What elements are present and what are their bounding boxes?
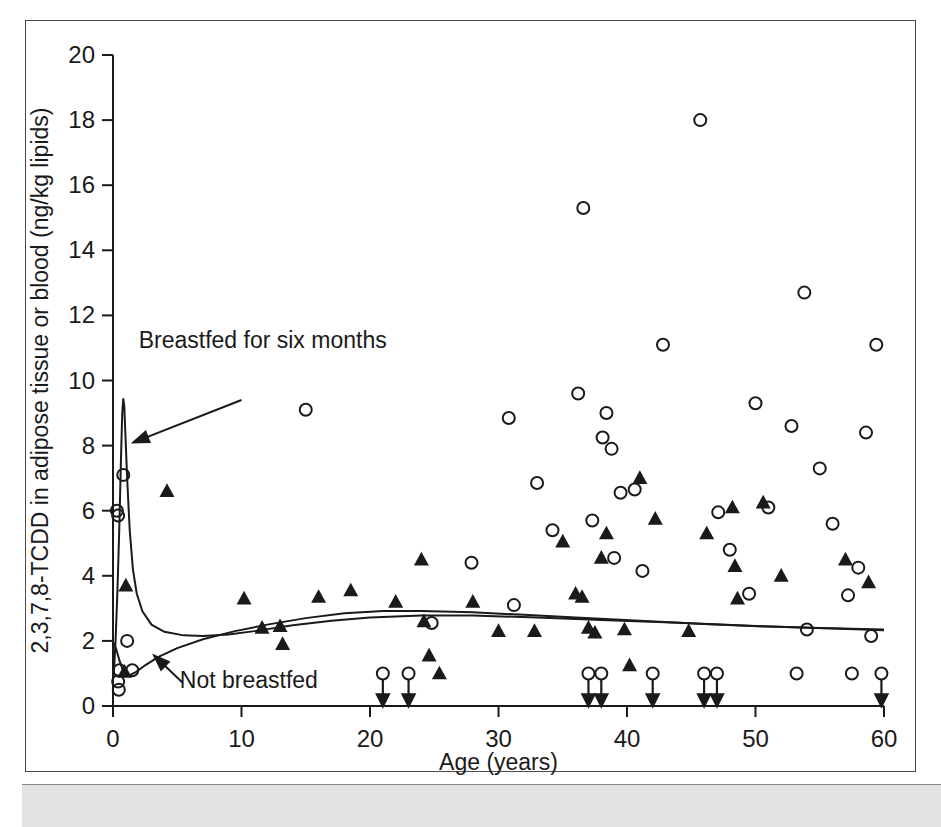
y-tick-label-10: 10 <box>68 367 95 394</box>
data-point-open-circle <box>827 518 839 530</box>
data-point-filled-triangle <box>491 623 506 637</box>
data-point-open-circle <box>113 684 125 696</box>
x-axis-title: Age (years) <box>439 749 558 775</box>
data-point-open-circle <box>636 565 648 577</box>
y-tick-label-20: 20 <box>68 41 95 68</box>
censored-arrow-head <box>582 694 594 706</box>
data-point-open-circle <box>403 667 415 679</box>
data-point-filled-triangle <box>632 470 647 484</box>
data-point-open-circle <box>852 562 864 574</box>
data-point-open-circle <box>121 635 133 647</box>
y-tick-label-0: 0 <box>82 692 95 719</box>
x-tick-label-0: 0 <box>106 725 119 752</box>
data-point-open-circle <box>597 431 609 443</box>
data-point-open-circle <box>814 462 826 474</box>
y-tick-label-12: 12 <box>68 301 95 328</box>
data-point-filled-triangle <box>343 583 358 597</box>
data-point-filled-triangle <box>774 568 789 582</box>
censored-arrow-head <box>711 694 723 706</box>
data-point-open-circle <box>711 667 723 679</box>
data-point-open-circle <box>629 484 641 496</box>
data-point-open-circle <box>608 552 620 564</box>
data-point-filled-triangle <box>861 575 876 589</box>
data-point-open-circle <box>582 667 594 679</box>
data-point-filled-triangle <box>237 591 252 605</box>
data-point-open-circle <box>842 589 854 601</box>
data-point-filled-triangle <box>594 550 609 564</box>
data-point-filled-triangle <box>527 623 542 637</box>
x-tick-label-30: 30 <box>485 725 512 752</box>
data-point-filled-triangle <box>159 483 174 497</box>
data-point-open-circle <box>503 412 515 424</box>
data-point-open-circle <box>846 667 858 679</box>
data-point-open-circle <box>647 667 659 679</box>
data-point-filled-triangle <box>432 666 447 680</box>
data-point-open-circle <box>870 339 882 351</box>
data-point-filled-triangle <box>388 594 403 608</box>
x-tick-label-20: 20 <box>357 725 384 752</box>
breastfed-annotation-arrow-head <box>134 432 150 443</box>
y-tick-label-8: 8 <box>82 432 95 459</box>
data-point-open-circle <box>606 443 618 455</box>
data-point-filled-triangle <box>311 589 326 603</box>
data-point-open-circle <box>750 397 762 409</box>
data-point-open-circle <box>600 407 612 419</box>
data-point-open-circle <box>531 477 543 489</box>
x-tick-label-40: 40 <box>614 725 641 752</box>
x-tick-label-60: 60 <box>871 725 898 752</box>
data-point-open-circle <box>657 339 669 351</box>
data-point-open-circle <box>615 487 627 499</box>
x-tick-label-10: 10 <box>228 725 255 752</box>
data-point-open-circle <box>791 667 803 679</box>
data-point-filled-triangle <box>422 648 437 662</box>
data-point-filled-triangle <box>725 500 740 514</box>
data-point-open-circle <box>508 599 520 611</box>
y-tick-label-4: 4 <box>82 562 95 589</box>
data-point-filled-triangle <box>727 558 742 572</box>
data-point-open-circle <box>785 420 797 432</box>
data-point-open-circle <box>724 544 736 556</box>
not-breastfed-annotation-label: Not breastfed <box>180 667 318 693</box>
axis-lines <box>113 55 884 706</box>
data-point-open-circle <box>586 514 598 526</box>
fit-curve-not-breastfed <box>114 611 884 675</box>
data-point-filled-triangle <box>617 622 632 636</box>
y-tick-label-2: 2 <box>82 627 95 654</box>
y-tick-label-6: 6 <box>82 497 95 524</box>
breastfed-annotation-label: Breastfed for six months <box>139 327 387 353</box>
data-point-open-circle <box>875 667 887 679</box>
data-point-filled-triangle <box>117 664 132 678</box>
data-point-filled-triangle <box>622 658 637 672</box>
data-point-open-circle <box>798 287 810 299</box>
data-point-open-circle <box>712 506 724 518</box>
data-point-open-circle <box>466 557 478 569</box>
data-point-open-circle <box>860 427 872 439</box>
data-point-open-circle <box>595 667 607 679</box>
y-axis-title: 2,3,7,8-TCDD in adipose tissue or blood … <box>27 108 53 654</box>
data-point-filled-triangle <box>118 578 133 592</box>
data-point-open-circle <box>694 114 706 126</box>
data-point-filled-triangle <box>414 552 429 566</box>
data-point-open-circle <box>546 524 558 536</box>
data-point-filled-triangle <box>699 526 714 540</box>
censored-arrow-head <box>403 694 415 706</box>
data-point-open-circle <box>698 667 710 679</box>
data-point-open-circle <box>377 667 389 679</box>
censored-arrow-head <box>377 694 389 706</box>
censored-arrow-head <box>647 694 659 706</box>
y-tick-label-14: 14 <box>68 236 95 263</box>
y-tick-label-18: 18 <box>68 106 95 133</box>
breastfed-annotation-leader-line <box>134 400 242 442</box>
data-point-open-circle <box>865 630 877 642</box>
data-point-open-circle <box>300 404 312 416</box>
data-point-open-circle <box>743 588 755 600</box>
censored-arrow-head <box>875 694 887 706</box>
censored-arrow-head <box>595 694 607 706</box>
censored-arrow-head <box>698 694 710 706</box>
data-point-filled-triangle <box>465 594 480 608</box>
data-point-open-circle <box>801 624 813 636</box>
data-point-filled-triangle <box>599 526 614 540</box>
data-point-filled-triangle <box>648 511 663 525</box>
data-point-filled-triangle <box>273 618 288 632</box>
